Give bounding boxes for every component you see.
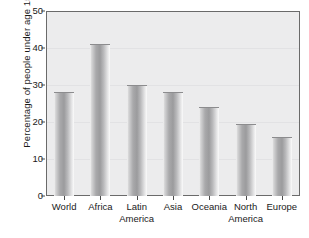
plot-area [46,11,300,196]
y-tick-mark [41,196,45,197]
x-tick-label: Africa [88,201,112,213]
x-tick-label-line1: Asia [164,201,182,212]
y-tick-mark [41,48,45,49]
y-tick-mark [41,122,45,123]
x-tick-label-line1: World [52,201,77,212]
gridline [47,159,299,160]
x-tick-label-line1: Latin [126,201,147,212]
y-tick-label: 0 [3,191,43,201]
x-tick-label: Asia [164,201,182,213]
x-tick-mark [282,196,283,200]
x-axis-labels: WorldAfricaLatinAmericaAsiaOceaniaNorthA… [46,201,300,233]
x-tick-label: World [52,201,77,213]
gridline [47,85,299,86]
y-tick-label: 20 [3,117,43,127]
y-tick-label: 40 [3,43,43,53]
y-tick-label: 10 [3,154,43,164]
x-tick-label: Oceania [192,201,227,213]
x-tick-label: LatinAmerica [119,201,154,225]
x-tick-label-line1: Africa [88,201,112,212]
y-tick-label: 50 [3,6,43,16]
x-axis-ticks [46,196,300,200]
gridline [47,11,299,12]
x-tick-label: Europe [267,201,298,213]
bar-chart: Percentage of people under age 15 010203… [0,0,309,238]
x-tick-label-line1: Europe [267,201,298,212]
x-tick-mark [173,196,174,200]
x-tick-mark [64,196,65,200]
x-tick-label-line2: America [228,213,263,225]
x-tick-label-line2: America [119,213,154,225]
x-tick-mark [209,196,210,200]
x-tick-label: NorthAmerica [228,201,263,225]
x-tick-label-line1: Oceania [192,201,227,212]
x-tick-label-line1: North [234,201,257,212]
gridline [47,122,299,123]
y-axis-ticks: 01020304050 [0,11,43,196]
x-tick-mark [246,196,247,200]
y-tick-mark [41,159,45,160]
gridline [47,48,299,49]
x-tick-mark [137,196,138,200]
y-tick-mark [41,85,45,86]
y-tick-mark [41,11,45,12]
x-tick-mark [100,196,101,200]
y-tick-label: 30 [3,80,43,90]
